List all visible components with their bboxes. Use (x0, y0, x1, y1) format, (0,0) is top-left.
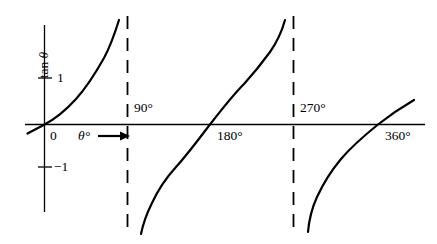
x-axis-title: θ° (78, 129, 90, 143)
x-tick-label-0: 0 (50, 129, 57, 143)
x-tick-label-90: 90° (134, 101, 153, 115)
x-axis-direction-arrow-icon (98, 132, 130, 141)
y-tick-label-negative-one: −1 (54, 160, 68, 174)
tan-curve-branch-3 (308, 100, 414, 232)
x-tick-label-360: 360° (385, 129, 411, 143)
y-axis-title: tan θ (36, 34, 54, 96)
y-axis-title-prefix: tan (36, 58, 51, 78)
x-tick-label-180: 180° (217, 129, 243, 143)
y-tick-label-positive-one: 1 (57, 71, 64, 85)
y-axis-title-theta-symbol: θ (36, 52, 51, 59)
tan-theta-graph-figure: tan θ 1 −1 0 θ° 90° 180° 270° 360° (0, 0, 437, 244)
x-tick-label-270: 270° (300, 101, 326, 115)
plot-canvas (0, 0, 437, 244)
tan-curve-branch-2 (141, 20, 285, 234)
